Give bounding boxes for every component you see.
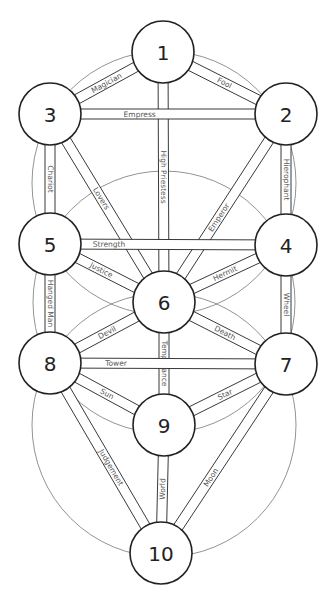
path-tower: Tower [50,358,286,369]
node-number: 5 [44,233,57,257]
node-number: 4 [280,234,293,258]
path-label: Magician [90,71,124,95]
sephira-node-8: 8 [19,332,81,394]
sephira-node-9: 9 [133,394,195,456]
path-empress: Empress [50,109,286,119]
path-label: Tower [104,359,128,368]
path-strength: Strength [50,239,286,250]
path-label: Judgement [96,447,125,488]
node-number: 3 [44,103,57,127]
path-label: Death [213,324,238,342]
path-label: Wheel [282,293,291,316]
node-number: 10 [148,542,173,566]
path-label: World [158,478,168,500]
sephira-node-2: 2 [255,83,317,145]
path-label: Strength [93,240,126,249]
path-label: Emperor [206,201,231,234]
path-label: Empress [124,110,156,119]
sephira-node-10: 10 [130,522,192,584]
path-label: Justice [87,260,114,280]
tree-of-life-diagram: FoolMagicianHigh PriestessEmpressEmperor… [0,0,336,600]
sephira-node-4: 4 [255,214,317,276]
node-number: 9 [158,414,171,438]
sephira-node-7: 7 [255,333,317,395]
sephira-node-5: 5 [19,213,81,275]
node-number: 2 [280,103,293,127]
sephira-node-6: 6 [133,271,195,333]
path-label: High Priestess [159,150,168,203]
path-label: Hanged Man [46,280,55,328]
sephira-node-1: 1 [132,21,194,83]
path-label: Hierophant [282,159,291,201]
path-label: Hermit [212,264,239,283]
path-label: Chariot [46,165,55,192]
node-number: 7 [280,353,293,377]
node-number: 6 [158,291,171,315]
sephira-node-3: 3 [19,83,81,145]
node-number: 1 [157,41,170,65]
path-high-priestess: High Priestess [158,52,169,302]
node-number: 8 [44,352,57,376]
